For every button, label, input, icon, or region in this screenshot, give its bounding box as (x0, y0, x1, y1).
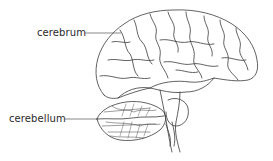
brain-illustration (0, 0, 273, 161)
cerebrum-outline (96, 10, 258, 99)
cerebrum-label: cerebrum (37, 27, 86, 39)
cerebellum-label: cerebellum (9, 113, 66, 125)
cerebellum-outline (97, 101, 166, 140)
brain-diagram: cerebrum cerebellum (0, 0, 273, 161)
